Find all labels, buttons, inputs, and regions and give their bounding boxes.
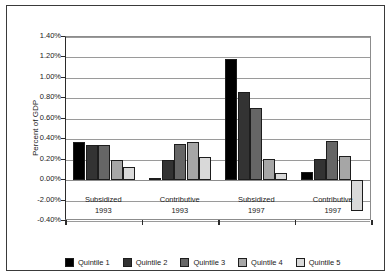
legend-label: Quintile 2	[136, 258, 168, 267]
x-axis-tick-mark	[65, 220, 67, 225]
y-axis-tick-labels: 1.40%1.20%1.00%0.80%0.60%0.40%0.20%0.00%…	[7, 36, 61, 220]
bar-group	[294, 37, 370, 219]
bar-set	[218, 37, 294, 219]
y-axis-tick-label: 1.40%	[15, 32, 61, 40]
category-label-line: 1997	[218, 205, 295, 216]
legend-item[interactable]: Quintile 2	[123, 258, 168, 267]
bar[interactable]	[225, 59, 237, 180]
y-axis-tick-label: 0.40%	[15, 134, 61, 142]
legend-label: Quintile 1	[78, 258, 110, 267]
bar[interactable]	[339, 156, 351, 181]
bar[interactable]	[238, 92, 250, 180]
plot-area	[65, 36, 371, 220]
bar[interactable]	[123, 167, 135, 180]
bar[interactable]	[301, 172, 313, 180]
legend-label: Quintile 4	[251, 258, 283, 267]
chart-screenshot: Percent of GDP 1.40%1.20%1.00%0.80%0.60%…	[0, 0, 392, 278]
y-axis-tick-label: 1.00%	[15, 73, 61, 81]
x-axis-tick-mark	[371, 220, 373, 225]
legend-item[interactable]: Quintile 1	[65, 258, 110, 267]
y-axis-tick-label: 0.60%	[15, 114, 61, 122]
category-label: Subsidized1997	[218, 194, 295, 220]
category-label-line: Subsidized	[218, 194, 295, 205]
y-axis-tick-label: 0.00%	[15, 175, 61, 183]
category-label-line: Contributive	[295, 194, 372, 205]
category-label-line: 1997	[295, 205, 372, 216]
bar[interactable]	[314, 159, 326, 180]
bar[interactable]	[174, 144, 186, 180]
category-label-line: 1993	[142, 205, 219, 216]
bar[interactable]	[199, 157, 211, 181]
bar-set	[294, 37, 370, 219]
bar-set	[66, 37, 142, 219]
bar[interactable]	[111, 160, 123, 180]
bar[interactable]	[149, 178, 161, 180]
legend-swatch	[296, 258, 305, 267]
legend-item[interactable]: Quintile 3	[180, 258, 225, 267]
bar[interactable]	[98, 145, 110, 180]
legend-swatch	[180, 258, 189, 267]
bar[interactable]	[326, 141, 338, 180]
bar-group	[142, 37, 218, 219]
x-axis-tick-mark	[142, 220, 144, 225]
legend-swatch	[123, 258, 132, 267]
x-axis-tick-mark	[295, 220, 297, 225]
figure-frame: Percent of GDP 1.40%1.20%1.00%0.80%0.60%…	[6, 5, 385, 271]
bar[interactable]	[86, 145, 98, 180]
category-label-line: Contributive	[142, 194, 219, 205]
category-label-line: Subsidized	[65, 194, 142, 205]
chart-legend: Quintile 1Quintile 2Quintile 3Quintile 4…	[65, 258, 385, 267]
y-axis-tick-label: -0.40%	[15, 216, 61, 224]
category-label: Subsidized1993	[65, 194, 142, 220]
plot-wrapper	[65, 36, 371, 220]
bar[interactable]	[73, 142, 85, 180]
bar[interactable]	[250, 108, 262, 181]
legend-swatch	[65, 258, 74, 267]
y-axis-tick-label: 1.20%	[15, 52, 61, 60]
legend-label: Quintile 5	[309, 258, 341, 267]
category-label: Contributive1993	[142, 194, 219, 220]
bar[interactable]	[162, 160, 174, 180]
y-axis-tick-label: 0.80%	[15, 93, 61, 101]
y-axis-tick-label: 0.20%	[15, 155, 61, 163]
legend-label: Quintile 3	[193, 258, 225, 267]
legend-item[interactable]: Quintile 4	[238, 258, 283, 267]
y-axis-tick-label: -2.00%	[15, 196, 61, 204]
bar[interactable]	[263, 159, 275, 180]
bar-groups	[66, 37, 370, 219]
legend-item[interactable]: Quintile 5	[296, 258, 341, 267]
x-axis-category-labels: Subsidized1993Contributive1993Subsidized…	[65, 194, 371, 220]
bar-set	[142, 37, 218, 219]
bar-group	[218, 37, 294, 219]
category-label-line: 1993	[65, 205, 142, 216]
bar-group	[66, 37, 142, 219]
bar[interactable]	[275, 173, 287, 180]
legend-swatch	[238, 258, 247, 267]
bar[interactable]	[187, 142, 199, 180]
category-label: Contributive1997	[295, 194, 372, 220]
x-axis-tick-mark	[218, 220, 220, 225]
